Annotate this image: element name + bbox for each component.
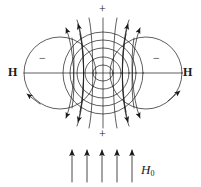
charge-sign-bottom: + [99, 128, 106, 140]
external-field-subscript: 0 [150, 169, 154, 178]
atom-label-left: H [8, 66, 17, 78]
charge-sign-right: − [153, 52, 160, 64]
external-field-arrows [72, 150, 132, 182]
charge-sign-left: − [39, 52, 46, 64]
external-field-symbol: H [141, 162, 150, 177]
charge-sign-top: + [99, 3, 106, 15]
figure-canvas [0, 0, 201, 187]
external-field-label: H0 [141, 163, 154, 176]
circulation-arrow-left [27, 94, 40, 104]
field-line-figure: H H + + − − H0 [0, 0, 201, 187]
circulation-arrow-right [168, 91, 180, 101]
atom-label-right: H [183, 66, 192, 78]
